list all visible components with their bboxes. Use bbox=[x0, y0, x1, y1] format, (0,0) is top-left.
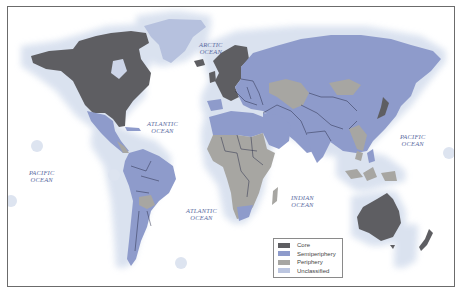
ocean-label-line: OCEAN bbox=[291, 201, 314, 208]
legend-label: Unclassified bbox=[297, 268, 329, 274]
ocean-label-line: PACIFIC bbox=[29, 169, 54, 176]
map-graphic bbox=[8, 7, 454, 286]
ocean-label-arctic: ARCTIC OCEAN bbox=[199, 41, 223, 55]
legend-label: Periphery bbox=[297, 259, 323, 265]
ocean-label-atlantic-south: ATLANTIC OCEAN bbox=[186, 207, 217, 221]
legend-label: Semiperiphery bbox=[297, 251, 336, 257]
ocean-label-line: ARCTIC bbox=[199, 41, 223, 48]
region-madagascar bbox=[272, 187, 278, 205]
region-africa bbox=[207, 133, 275, 219]
legend-swatch-core bbox=[278, 243, 290, 248]
ocean-label-atlantic-north: ATLANTIC OCEAN bbox=[147, 120, 178, 134]
ocean-label-line: INDIAN bbox=[291, 194, 314, 201]
ocean-label-line: ATLANTIC bbox=[147, 120, 178, 127]
region-new-zealand bbox=[419, 229, 433, 251]
ocean-label-indian: INDIAN OCEAN bbox=[291, 194, 314, 208]
legend-item-unclassified: Unclassified bbox=[278, 267, 342, 276]
ocean-label-line: OCEAN bbox=[186, 214, 217, 221]
legend-item-core: Core bbox=[278, 241, 342, 250]
ocean-label-line: PACIFIC bbox=[400, 133, 425, 140]
legend-swatch-semiperiphery bbox=[278, 251, 290, 256]
ocean-label-line: OCEAN bbox=[199, 48, 223, 55]
legend-swatch-periphery bbox=[278, 260, 290, 265]
legend-label: Core bbox=[297, 242, 310, 248]
ocean-label-line: ATLANTIC bbox=[186, 207, 217, 214]
map-legend: Core Semiperiphery Periphery Unclassifie… bbox=[273, 238, 343, 278]
region-iceland bbox=[194, 59, 205, 67]
ocean-label-line: OCEAN bbox=[147, 127, 178, 134]
region-south-africa bbox=[237, 205, 253, 221]
region-india bbox=[307, 131, 331, 163]
ocean-label-pacific-east: PACIFIC OCEAN bbox=[400, 133, 425, 147]
ocean-label-line: OCEAN bbox=[29, 176, 54, 183]
legend-item-semiperiphery: Semiperiphery bbox=[278, 250, 342, 259]
ocean-label-pacific-west: PACIFIC OCEAN bbox=[29, 169, 54, 183]
ocean-label-line: OCEAN bbox=[400, 140, 425, 147]
world-map: ARCTIC OCEAN ATLANTIC OCEAN PACIFIC OCEA… bbox=[7, 6, 455, 287]
legend-swatch-unclassified bbox=[278, 268, 290, 273]
legend-item-periphery: Periphery bbox=[278, 258, 342, 267]
region-north-africa bbox=[209, 111, 263, 137]
